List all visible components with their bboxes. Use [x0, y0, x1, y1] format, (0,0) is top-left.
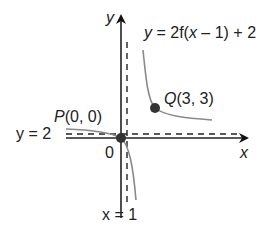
point-p-name: P — [54, 108, 65, 125]
point-q — [150, 103, 160, 113]
y-axis-label: y — [105, 9, 115, 26]
point-q-coords: (3, 3) — [176, 90, 213, 107]
point-p — [116, 133, 126, 143]
x-axis-label: x — [239, 144, 249, 161]
curve-equation-mid: = 2f( — [152, 24, 190, 41]
point-p-coords: (0, 0) — [65, 108, 102, 125]
point-q-name: Q — [164, 90, 176, 107]
curve-equation-label: y = 2f(x – 1) + 2 — [143, 24, 256, 41]
point-q-label: Q(3, 3) — [164, 90, 214, 107]
curve-equation-tail: – 1) + 2 — [197, 24, 256, 41]
vertical-asymptote-label: x = 1 — [102, 206, 137, 223]
horizontal-asymptote-label: y = 2 — [16, 125, 51, 142]
origin-label: 0 — [105, 144, 114, 161]
graph-diagram: y x 0 y = 2f(x – 1) + 2 Q(3, 3) P(0, 0) … — [0, 0, 262, 232]
curve-lower-right-branch — [121, 138, 136, 200]
point-p-label: P(0, 0) — [54, 108, 102, 125]
